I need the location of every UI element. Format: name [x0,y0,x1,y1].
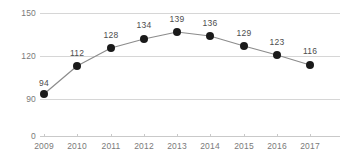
data-point-2015 [240,42,248,50]
data-point-2011 [107,44,115,52]
data-point-2016 [273,51,281,59]
data-point-2014 [206,32,214,40]
data-point-2017 [306,61,314,69]
data-label-2014: 136 [190,18,230,28]
data-point-2012 [140,35,148,43]
data-label-2009: 94 [24,78,64,88]
line-chart: 150 120 90 0 2009 2010 2011 2012 2013 20… [0,0,340,167]
data-point-2010 [73,62,81,70]
data-point-2009 [40,90,48,98]
data-label-2017: 116 [290,46,330,56]
data-point-2013 [173,28,181,36]
data-label-2011: 128 [91,30,131,40]
data-label-2010: 112 [57,48,97,58]
